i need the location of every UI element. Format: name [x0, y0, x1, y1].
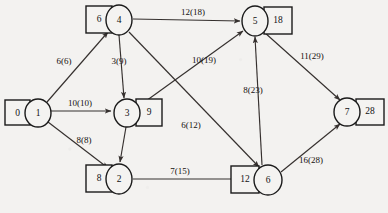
edge-label-1-2: 8(8): [77, 135, 92, 145]
edge-label-4-5: 12(18): [181, 7, 205, 17]
edge-1-4: [47, 32, 108, 102]
edge-label-5-7: 11(29): [300, 51, 324, 61]
node-3-value: 9: [147, 107, 152, 117]
node-2-label: 2: [117, 174, 122, 184]
edge-5-7: [264, 32, 340, 100]
edge-label-1-4: 6(6): [57, 56, 72, 66]
edge-label-4-6: 6(12): [181, 120, 201, 130]
node-1[interactable]: 0 1: [5, 99, 51, 127]
network-diagram: 6(6) 3(9) 10(10) 8(8) 12(18) 10(19) 6(12…: [0, 0, 388, 213]
edge-3-5: [139, 31, 243, 106]
node-6[interactable]: 12 6: [231, 165, 282, 195]
node-5-value: 18: [273, 15, 283, 25]
node-3-label: 3: [125, 108, 130, 118]
node-6-label: 6: [266, 175, 271, 185]
edge-3-2: [120, 127, 126, 162]
edge-label-1-3: 10(10): [68, 98, 92, 108]
node-4-value: 6: [97, 14, 102, 24]
edge-label-3-5: 10(19): [192, 55, 216, 65]
edge-label-6-7: 16(28): [299, 155, 323, 165]
node-3[interactable]: 9 3: [114, 99, 162, 127]
node-7-label: 7: [345, 107, 350, 117]
edge-4-5: [133, 19, 240, 21]
edge-label-4-3: 3(9): [112, 56, 127, 66]
edge-6-5: [255, 37, 262, 165]
diagram-canvas: 6(6) 3(9) 10(10) 8(8) 12(18) 10(19) 6(12…: [0, 0, 388, 213]
edge-label-2-6: 7(15): [170, 166, 190, 176]
node-7-value: 28: [365, 106, 375, 116]
node-4-label: 4: [117, 15, 122, 25]
node-2-value: 8: [97, 173, 102, 183]
node-6-value: 12: [240, 174, 250, 184]
node-5[interactable]: 18 5: [242, 6, 292, 36]
node-5-label: 5: [253, 16, 258, 26]
node-4[interactable]: 6 4: [86, 5, 132, 35]
node-1-label: 1: [36, 108, 41, 118]
node-1-value: 0: [15, 108, 20, 118]
edge-4-3: [119, 35, 124, 98]
node-7[interactable]: 28 7: [334, 98, 384, 126]
node-2[interactable]: 8 2: [86, 164, 132, 194]
edge-label-6-5: 8(23): [243, 85, 263, 95]
